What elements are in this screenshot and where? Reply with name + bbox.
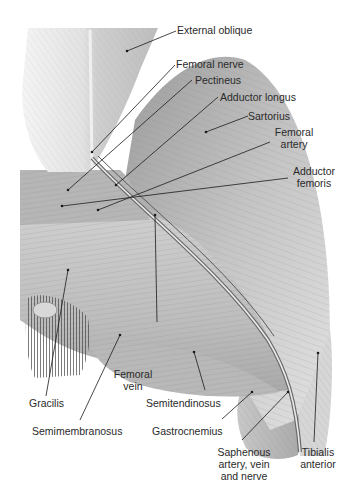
label-adductor-longus: Adductor longus [220,91,296,103]
label-saphenous-line2: artery, vein [212,458,276,470]
label-tibialis-line1: Tibialis [295,446,341,458]
label-external-oblique: External oblique [177,24,252,36]
label-femoral-nerve: Femoral nerve [176,58,244,70]
label-femoral-artery-line1: Femoral [272,126,316,138]
label-tibialis-line2: anterior [295,458,341,470]
label-adductor-femoris: Adductor femoris [290,165,338,189]
label-saphenous-line1: Saphenous [212,446,276,458]
label-gracilis: Gracilis [29,397,64,409]
label-sartorius: Sartorius [248,110,290,122]
label-femoral-artery-line2: artery [272,138,316,150]
anatomy-figure: External oblique Femoral nerve Pectineus… [0,0,353,489]
label-saphenous: Saphenous artery, vein and nerve [212,446,276,482]
label-saphenous-line3: and nerve [212,470,276,482]
label-semitendinosus: Semitendinosus [146,397,221,409]
label-adductor-femoris-line1: Adductor [290,165,338,177]
label-femoral-vein: Femoral vein [113,368,153,392]
label-semimembranosus: Semimembranosus [32,425,122,437]
label-femoral-artery: Femoral artery [272,126,316,150]
label-femoral-vein-line2: vein [113,380,153,392]
label-adductor-femoris-line2: femoris [290,177,338,189]
thigh-muscle-illustration [0,0,353,489]
label-tibialis-anterior: Tibialis anterior [295,446,341,470]
label-gastrocnemius: Gastrocnemius [152,425,223,437]
label-femoral-vein-line1: Femoral [113,368,153,380]
label-pectineus: Pectineus [195,74,241,86]
